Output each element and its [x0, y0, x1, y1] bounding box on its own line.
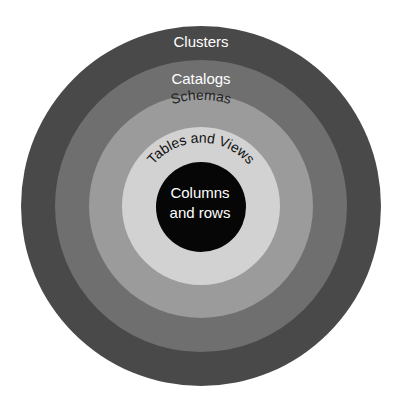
and-rows-label: and rows: [170, 204, 231, 221]
catalogs-label: Catalogs: [171, 70, 230, 87]
columns-label: Columns: [170, 184, 229, 201]
concentric-layers-diagram: Clusters Catalogs Schemas Tables and Vie…: [0, 0, 403, 409]
clusters-label: Clusters: [173, 33, 228, 50]
